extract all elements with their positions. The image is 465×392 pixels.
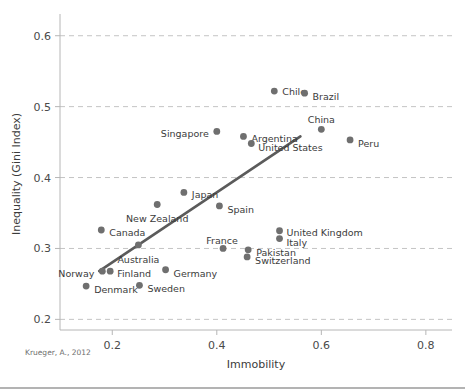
data-point-marker — [162, 266, 169, 273]
x-tick-label: 0.4 — [208, 339, 226, 352]
data-point-marker — [248, 140, 255, 147]
data-point: United States — [248, 140, 323, 152]
data-point-label: Italy — [287, 237, 308, 248]
data-point-marker — [216, 203, 223, 210]
y-tick-label: 0.2 — [34, 313, 52, 326]
x-tick-label: 0.2 — [104, 339, 122, 352]
data-point-marker — [136, 282, 143, 289]
data-point-marker — [244, 254, 251, 261]
data-point-label: Norway — [58, 268, 94, 279]
y-tick-label: 0.4 — [34, 172, 52, 185]
x-axis-title: Immobility — [227, 358, 286, 371]
data-point-marker — [276, 235, 283, 242]
chart-figure: 0.20.40.60.8 0.20.30.40.50.6 DenmarkNorw… — [0, 0, 465, 392]
data-point-marker — [301, 90, 308, 97]
data-point-label: New Zealand — [126, 213, 188, 224]
data-point-label: Switzerland — [255, 255, 310, 266]
data-point-marker — [83, 283, 90, 290]
data-point-marker — [347, 137, 354, 144]
data-point-marker — [240, 133, 247, 140]
scatter-chart: 0.20.40.60.8 0.20.30.40.50.6 DenmarkNorw… — [0, 0, 465, 392]
y-axis-title: Inequality (Gini Index) — [10, 113, 23, 235]
y-tick-label: 0.6 — [34, 30, 52, 43]
data-point-label: Germany — [174, 268, 218, 279]
data-point-marker — [271, 88, 278, 95]
data-point-marker — [276, 227, 283, 234]
data-point-marker — [318, 126, 325, 133]
data-point-label: Sweden — [147, 283, 185, 294]
data-point-label: Japan — [191, 189, 219, 200]
data-point-label: Peru — [358, 138, 379, 149]
y-tick-label: 0.3 — [34, 242, 52, 255]
data-point-label: Australia — [117, 254, 159, 265]
data-point-marker — [98, 227, 105, 234]
data-point-marker — [180, 189, 187, 196]
x-tick-label: 0.8 — [417, 339, 435, 352]
data-point-label: Finland — [117, 268, 151, 279]
x-tick-label: 0.6 — [313, 339, 331, 352]
data-point-label: China — [308, 114, 335, 125]
y-tick-label: 0.5 — [34, 101, 52, 114]
data-point-label: France — [206, 235, 238, 246]
data-point-marker — [213, 128, 220, 135]
data-point-label: Canada — [109, 227, 145, 238]
chart-background — [0, 0, 465, 392]
data-point-label: Brazil — [313, 91, 340, 102]
data-point-label: Denmark — [94, 284, 138, 295]
data-point-marker — [154, 201, 161, 208]
data-point-label: Spain — [227, 204, 254, 215]
data-point-label: Singapore — [161, 128, 209, 139]
data-point-marker — [245, 246, 252, 253]
data-point-marker — [135, 242, 142, 249]
data-point-label: United States — [258, 142, 322, 153]
data-point-marker — [107, 268, 114, 275]
data-point-marker — [99, 268, 106, 275]
source-note: Krueger, A., 2012 — [25, 348, 91, 357]
